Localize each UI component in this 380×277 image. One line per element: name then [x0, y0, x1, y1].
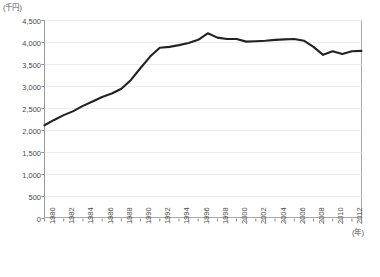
- chart-canvas: [0, 0, 380, 277]
- x-axis-ticks: [45, 219, 362, 222]
- y-axis-ticks: [42, 21, 45, 219]
- data-series-line: [45, 33, 362, 125]
- income-line-chart: (千円) (年) 05001,0001,5002,0002,5003,0003,…: [0, 0, 380, 277]
